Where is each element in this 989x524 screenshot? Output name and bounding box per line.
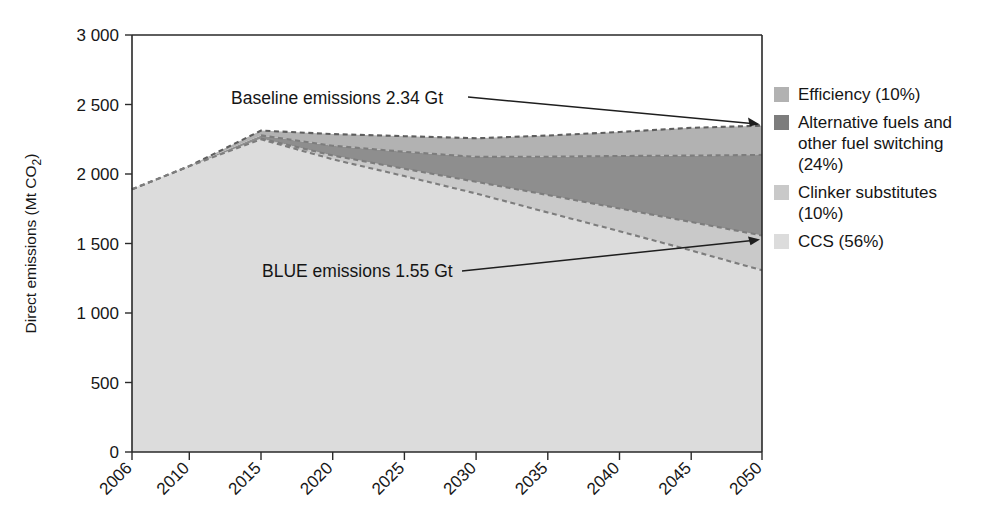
y-tick-label-1000: 1 000: [76, 304, 119, 323]
chart-figure: 3 000 2 500 2 000 1 500 1 000 500 0 Dire…: [0, 0, 989, 524]
y-axis-title-main: Direct emissions (Mt CO: [22, 165, 39, 333]
annotation-baseline-label: Baseline emissions 2.34 Gt: [231, 88, 443, 108]
legend-swatch-ccs-icon: [774, 234, 789, 249]
legend-label-efficiency: Efficiency (10%): [798, 84, 921, 105]
x-tick-label-2050: 2050: [726, 458, 766, 498]
legend-item-clinker-substitutes: Clinker substitutes(10%): [774, 182, 989, 224]
legend-swatch-clinker-substitutes-icon: [774, 185, 789, 200]
x-tick-label-2020: 2020: [296, 458, 336, 498]
svg-text:Direct emissions (Mt CO2): Direct emissions (Mt CO2): [22, 154, 44, 334]
x-axis-ticks: 2006 2010 2015 2020 2025 2030 2035 2040 …: [96, 452, 766, 499]
y-tick-label-2500: 2 500: [76, 96, 119, 115]
y-tick-label-2000: 2 000: [76, 165, 119, 184]
legend-item-alternative-fuels: Alternative fuels andother fuel switchin…: [774, 112, 989, 175]
x-tick-label-2045: 2045: [655, 458, 695, 498]
legend-swatch-alternative-fuels-icon: [774, 115, 789, 130]
legend-item-ccs: CCS (56%): [774, 231, 989, 252]
chart-legend: Efficiency (10%) Alternative fuels andot…: [774, 84, 989, 259]
y-axis-title-tail: ): [22, 154, 39, 159]
annotation-blue-label: BLUE emissions 1.55 Gt: [262, 261, 453, 281]
legend-item-efficiency: Efficiency (10%): [774, 84, 989, 105]
emissions-area-chart: 3 000 2 500 2 000 1 500 1 000 500 0 Dire…: [0, 0, 989, 524]
x-tick-label-2006: 2006: [96, 458, 136, 498]
x-tick-label-2010: 2010: [153, 458, 193, 498]
legend-label-clinker-substitutes: Clinker substitutes(10%): [798, 182, 937, 224]
x-tick-label-2035: 2035: [511, 458, 551, 498]
y-tick-label-500: 500: [91, 374, 119, 393]
y-tick-label-1500: 1 500: [76, 235, 119, 254]
legend-swatch-efficiency-icon: [774, 87, 789, 102]
stacked-areas: [132, 126, 762, 452]
y-tick-label-3000: 3 000: [76, 26, 119, 45]
legend-label-ccs: CCS (56%): [798, 231, 884, 252]
x-tick-label-2025: 2025: [368, 458, 408, 498]
legend-label-alternative-fuels: Alternative fuels andother fuel switchin…: [798, 112, 952, 175]
y-axis-title: Direct emissions (Mt CO2): [22, 154, 44, 334]
x-tick-label-2015: 2015: [225, 458, 265, 498]
y-axis-ticks: 3 000 2 500 2 000 1 500 1 000 500 0: [76, 26, 132, 462]
x-tick-label-2030: 2030: [440, 458, 480, 498]
x-tick-label-2040: 2040: [583, 458, 623, 498]
y-tick-label-0: 0: [110, 443, 119, 462]
